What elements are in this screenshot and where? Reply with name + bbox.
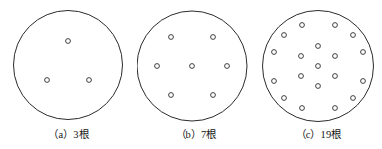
panel-a-diagram <box>0 0 137 125</box>
rod-dot <box>316 64 321 69</box>
rod-dot <box>333 106 338 111</box>
rod-dot <box>316 44 321 49</box>
rod-dot <box>45 78 50 83</box>
rod-dot <box>299 54 304 59</box>
rod-bundle-figure: （a）3根 （b）7根 <box>0 0 382 149</box>
panel-c-diagram <box>255 0 382 125</box>
rod-dot <box>272 79 277 84</box>
panel-c-caption: （c）19根 <box>255 128 382 141</box>
rod-dot <box>300 23 305 28</box>
rod-dot <box>87 78 92 83</box>
rod-dot <box>361 79 366 84</box>
rod-dot <box>169 35 174 40</box>
panel-c: （c）19根 <box>255 0 382 149</box>
rod-dot <box>282 33 287 38</box>
panel-b-diagram <box>137 0 255 125</box>
rod-dot <box>169 93 174 98</box>
rod-dot <box>351 33 356 38</box>
rod-dot <box>211 93 216 98</box>
panel-b: （b）7根 <box>137 0 255 149</box>
rod-dot <box>211 35 216 40</box>
panel-a-caption: （a）3根 <box>0 128 137 141</box>
rod-dot <box>282 96 287 101</box>
rod-dot <box>300 106 305 111</box>
rod-dot <box>225 64 230 69</box>
rod-dot <box>333 54 338 59</box>
rod-dot <box>66 39 71 44</box>
rod-dot <box>190 64 195 69</box>
rod-dot <box>351 96 356 101</box>
panel-b-caption: （b）7根 <box>137 128 255 141</box>
rod-dot <box>272 50 277 55</box>
rod-dot <box>333 74 338 79</box>
rod-dot <box>299 74 304 79</box>
rod-dot <box>361 50 366 55</box>
rod-dot <box>155 64 160 69</box>
panel-a: （a）3根 <box>0 0 137 149</box>
panel-a-outer-circle <box>14 11 123 120</box>
rod-dot <box>333 23 338 28</box>
rod-dot <box>316 84 321 89</box>
